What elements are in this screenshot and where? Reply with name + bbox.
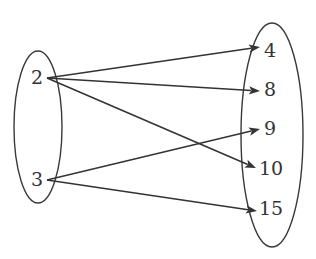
codomain-element-10: 10 xyxy=(259,157,283,179)
arrow-2-to-8 xyxy=(47,78,251,90)
codomain-element-15: 15 xyxy=(259,197,283,219)
domain-element-2: 2 xyxy=(31,66,43,88)
arrows-group xyxy=(47,44,260,213)
codomain-element-4: 4 xyxy=(264,39,276,61)
arrow-3-to-15 xyxy=(47,180,248,210)
arrow-2-to-4 xyxy=(47,48,251,78)
codomain-element-9: 9 xyxy=(264,117,276,139)
arrow-3-to-9 xyxy=(47,131,251,180)
mapping-diagram: 2 3 4 8 9 10 15 xyxy=(0,0,316,259)
domain-element-3: 3 xyxy=(31,168,43,190)
codomain-element-8: 8 xyxy=(264,78,276,100)
arrow-2-to-10 xyxy=(47,78,248,164)
